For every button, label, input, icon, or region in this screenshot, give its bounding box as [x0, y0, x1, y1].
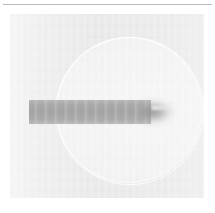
- horizontal-specimen-bar: [29, 100, 151, 124]
- circular-halo-edge-ring: [56, 37, 204, 185]
- film-grain-overlay: [10, 14, 204, 198]
- top-divider-rule: [3, 4, 212, 5]
- screenshot-root: [0, 0, 215, 213]
- blurred-tapered-tip: [143, 96, 189, 128]
- tip-highlight-sliver: [152, 106, 172, 110]
- plate-haze-overlay: [10, 14, 204, 198]
- plate-brightness-wash: [10, 14, 204, 198]
- circular-halo-region: [56, 37, 202, 183]
- image-plate: [10, 14, 204, 198]
- bar-streak-texture: [29, 100, 151, 124]
